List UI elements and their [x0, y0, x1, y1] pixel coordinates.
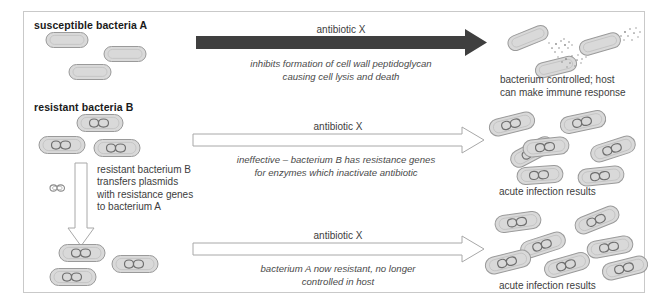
arrow-caption-line: inhibits formation of cell wall peptidog… [196, 58, 486, 71]
result-caption-line: bacterium controlled; host [500, 74, 660, 87]
susceptible-cell [104, 47, 146, 62]
arrow-label-row3: antibiotic X [193, 230, 483, 241]
lysing-cell-group [506, 23, 641, 79]
plasmid-transfer-arrow [68, 163, 94, 246]
resistant-cell [59, 245, 105, 262]
plasmid-transfer-note-line: resistant bacterium B [97, 164, 193, 176]
diagram-canvas: susceptible bacteria A antibiotic X inhi… [0, 0, 667, 305]
result-caption-line: can make immune response [500, 87, 660, 100]
result-caption-row3: acute infection results [499, 280, 659, 293]
resistant-cell-group-result-2 [484, 204, 650, 282]
susceptible-cell [69, 65, 111, 80]
susceptible-cell-group [46, 33, 146, 80]
resistant-cell [39, 137, 85, 154]
lysing-cell [578, 31, 623, 57]
resistant-cell-group-result-1 [488, 109, 638, 187]
result-caption-line: acute infection results [499, 280, 659, 293]
arrow-caption-row2: ineffective – bacterium B has resistance… [186, 154, 486, 179]
resistant-cell [77, 115, 123, 132]
resistant-cell-group-top [39, 115, 140, 157]
arrow-label-row2: antibiotic X [193, 121, 483, 132]
row-title-susceptible: susceptible bacteria A [34, 19, 147, 31]
arrow-caption-row1: inhibits formation of cell wall peptidog… [196, 58, 486, 83]
row-title-resistant: resistant bacteria B [34, 101, 133, 113]
resistant-cell [50, 269, 96, 286]
result-caption-row2: acute infection results [499, 186, 659, 199]
resistant-cell-group-transferred [50, 245, 158, 286]
arrow-caption-line: ineffective – bacterium B has resistance… [186, 154, 486, 167]
susceptible-cell [46, 33, 88, 48]
result-caption-line: acute infection results [499, 186, 659, 199]
free-plasmid-icon [50, 185, 65, 191]
plasmid-transfer-note-line: to bacterium A [97, 201, 193, 213]
resistant-cell [94, 140, 140, 157]
arrow-caption-line: controlled in host [190, 276, 486, 289]
arrow-label-row1: antibiotic X [196, 24, 486, 35]
diagram-graphics [0, 0, 667, 305]
arrow-caption-line: for enzymes which inactivate antibiotic [186, 167, 486, 180]
arrow-caption-row3: bacterium A now resistant, no longer con… [190, 263, 486, 288]
plasmid-transfer-note-line: with resistance genes [97, 189, 193, 201]
arrow-caption-line: causing cell lysis and death [196, 71, 486, 84]
plasmid-transfer-note-line: transfers plasmids [97, 176, 193, 188]
plasmid-transfer-note: resistant bacterium B transfers plasmids… [97, 164, 193, 214]
result-caption-row1: bacterium controlled; host can make immu… [500, 74, 660, 99]
lysing-cell [506, 23, 551, 53]
arrow-caption-line: bacterium A now resistant, no longer [190, 263, 486, 276]
resistant-cell [112, 256, 158, 273]
